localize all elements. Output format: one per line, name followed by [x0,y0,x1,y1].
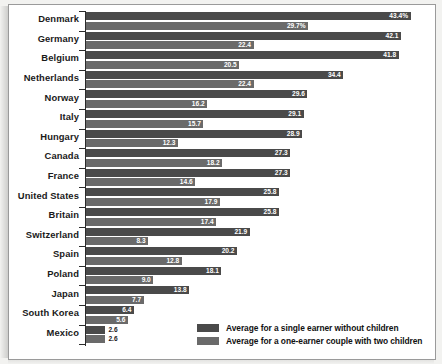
category-label: Denmark [9,9,85,29]
category-label: Spain [9,244,85,264]
category-label: Hungary [9,127,85,147]
axis-tick [79,89,86,90]
chart-page: DenmarkGermanyBelgiumNetherlandsNorwayIt… [0,0,442,364]
chart-legend: Average for a single earner without chil… [197,323,422,349]
bar-value-label: 7.7 [132,296,144,304]
bar-value-label: 20.2 [222,247,237,255]
bar-value-label: 28.9 [287,130,302,138]
bar-rows: 43.4%29.7%42.122.441.820.534.422.429.616… [86,12,436,345]
bar-series-2: 7.7 [86,296,144,304]
axis-tick [79,266,86,267]
bar-value-label: 16.2 [192,100,207,108]
axis-tick [79,129,86,130]
bar-series-2: 17.4 [86,218,216,226]
bar-value-label: 34.4 [328,71,343,79]
category-label: Germany [9,29,85,49]
legend-swatch-icon-series-1 [197,324,219,332]
axis-tick [79,168,86,169]
category-label: Switzerland [9,225,85,245]
bar-value-label: 21.9 [234,228,249,236]
bar-value-label: 8.3 [136,237,148,245]
axis-tick [79,50,86,51]
bar-series-1: 20.2 [86,247,237,255]
category-label: Poland [9,264,85,284]
bar-value-label: 13.8 [174,286,189,294]
bar-series-1: 21.9 [86,228,250,236]
bar-series-1: 34.4 [86,71,343,79]
bar-series-2: 14.6 [86,178,195,186]
axis-tick [79,31,86,32]
bar-series-2: 12.3 [86,139,178,147]
legend-item-series-2: Average for a one-earner couple with two… [197,336,422,346]
bar-group: 25.817.9 [86,188,436,208]
bar-group: 29.616.2 [86,90,436,110]
bar-group: 27.318.2 [86,149,436,169]
bar-group: 34.422.4 [86,71,436,91]
bar-group: 41.820.5 [86,51,436,71]
chart-card: DenmarkGermanyBelgiumNetherlandsNorwayIt… [8,4,436,360]
axis-tick [79,246,86,247]
bar-value-label: 6.4 [122,306,134,314]
category-label: Mexico [9,323,85,343]
bar-series-1: 25.8 [86,188,279,196]
bar-series-2: 22.4 [86,41,254,49]
bar-series-2: 29.7% [86,22,308,30]
bar-series-1: 27.3 [86,169,290,177]
bar-value-label: 27.3 [275,169,290,177]
category-label: France [9,166,85,186]
bar-value-label: 17.4 [201,218,216,226]
bar-value-label: 20.5 [224,61,239,69]
axis-tick [79,148,86,149]
bar-value-label: 29.7% [287,22,308,30]
bar-series-1: 42.1 [86,32,401,40]
category-label: South Korea [9,303,85,323]
bar-series-1: 27.3 [86,149,290,157]
bar-series-2: 22.4 [86,80,254,88]
axis-tick [79,344,86,345]
axis-tick [79,305,86,306]
bar-series-1: 29.1 [86,110,304,118]
bar-value-label: 17.9 [205,198,220,206]
bar-series-1: 18.1 [86,267,221,275]
bar-series-1: 2.6 [86,326,105,334]
category-label: Belgium [9,48,85,68]
bar-series-1: 43.4% [86,12,411,20]
axis-tick [79,109,86,110]
bar-series-2: 17.9 [86,198,220,206]
bar-value-label: 29.1 [288,110,303,118]
bar-series-1: 6.4 [86,306,134,314]
bar-value-label: 29.6 [292,90,307,98]
bar-value-label: 2.6 [105,335,117,343]
legend-label-series-1: Average for a single earner without chil… [226,323,398,333]
axis-tick [79,11,86,12]
bar-group: 18.19.0 [86,267,436,287]
category-label: Japan [9,283,85,303]
bar-value-label: 9.0 [142,276,154,284]
bar-value-label: 12.8 [166,257,181,265]
bar-series-2: 20.5 [86,61,239,69]
category-label: Britain [9,205,85,225]
bar-series-2: 12.8 [86,257,182,265]
bar-value-label: 12.3 [163,139,178,147]
bar-series-2: 2.6 [86,335,105,343]
bar-group: 25.817.4 [86,208,436,228]
bar-value-label: 18.2 [207,159,222,167]
plot-area: DenmarkGermanyBelgiumNetherlandsNorwayIt… [9,5,437,361]
bar-value-label: 14.6 [180,178,195,186]
category-axis-labels: DenmarkGermanyBelgiumNetherlandsNorwayIt… [9,9,85,342]
bar-value-label: 42.1 [385,32,400,40]
bar-value-label: 43.4% [389,12,410,20]
bar-series-2: 9.0 [86,276,153,284]
category-label: Norway [9,87,85,107]
axis-tick [79,227,86,228]
bar-series-1: 25.8 [86,208,279,216]
bar-group: 42.122.4 [86,32,436,52]
bar-value-label: 18.1 [206,267,221,275]
legend-item-series-1: Average for a single earner without chil… [197,323,422,333]
bar-value-label: 27.3 [275,149,290,157]
bar-series-2: 8.3 [86,237,148,245]
legend-swatch-icon-series-2 [197,337,219,345]
bar-value-label: 25.8 [264,188,279,196]
bar-series-2: 16.2 [86,100,207,108]
bar-group: 29.115.7 [86,110,436,130]
